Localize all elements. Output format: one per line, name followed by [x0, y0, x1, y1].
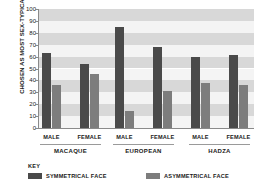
legend-swatch — [146, 173, 160, 179]
grid-band — [39, 116, 254, 128]
bar — [52, 85, 61, 128]
bar — [80, 64, 89, 128]
y-tick-label: 40 — [0, 77, 36, 83]
grid-band — [39, 92, 254, 104]
grid-band — [39, 80, 254, 92]
y-tick-label: 50 — [0, 66, 36, 72]
x-tick-label: MALE — [105, 134, 145, 140]
grid-band — [39, 69, 254, 81]
bar — [239, 85, 248, 128]
y-tick-label: 60 — [0, 54, 36, 60]
legend-label: ASYMMETRICAL FACE — [164, 173, 229, 179]
group-rule — [189, 144, 250, 145]
grid-band — [39, 21, 254, 33]
bar — [125, 111, 134, 128]
x-tick-label: MALE — [181, 134, 221, 140]
y-tick-label: 70 — [0, 42, 36, 48]
bar — [163, 91, 172, 128]
bar — [42, 53, 51, 128]
x-tick-label: FEMALE — [219, 134, 259, 140]
y-axis-line — [38, 9, 39, 129]
x-axis-line — [38, 128, 254, 129]
y-tick-label: 30 — [0, 89, 36, 95]
bar — [201, 83, 210, 128]
y-tick-label: 10 — [0, 113, 36, 119]
grid-band — [39, 104, 254, 116]
x-tick-label: MALE — [32, 134, 72, 140]
group-rule — [40, 144, 101, 145]
bar — [115, 27, 124, 128]
x-tick-label: FEMALE — [143, 134, 183, 140]
bar — [191, 57, 200, 128]
legend-title: KEY — [28, 163, 40, 169]
group-rule — [113, 144, 174, 145]
y-tick-label: 80 — [0, 30, 36, 36]
y-tick-label: 90 — [0, 18, 36, 24]
y-tick-label: 100 — [0, 6, 36, 12]
chart-figure: CHOSEN AS MOST SEX-TYPICAL (%) 010203040… — [0, 0, 259, 182]
x-tick-label: FEMALE — [70, 134, 110, 140]
legend-swatch — [28, 173, 42, 179]
plot-area — [39, 9, 254, 128]
group-label: HADZA — [169, 148, 259, 154]
y-tick-label: 20 — [0, 101, 36, 107]
y-axis-title: CHOSEN AS MOST SEX-TYPICAL (%) — [19, 0, 25, 99]
grid-band — [39, 57, 254, 69]
y-tick-label: 0 — [0, 125, 36, 131]
grid-band — [39, 45, 254, 57]
bar — [153, 47, 162, 128]
bar — [90, 74, 99, 128]
grid-band — [39, 9, 254, 21]
grid-band — [39, 33, 254, 45]
legend-label: SYMMETRICAL FACE — [46, 173, 107, 179]
bar — [229, 55, 238, 128]
